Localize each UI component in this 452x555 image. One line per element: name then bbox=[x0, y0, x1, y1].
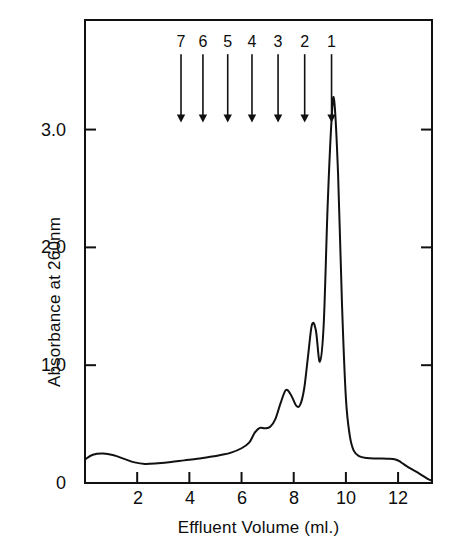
plot-area bbox=[0, 0, 452, 555]
arrow-head bbox=[199, 114, 207, 122]
arrow-head bbox=[327, 114, 335, 122]
peak-marker-label-2: 2 bbox=[295, 34, 315, 50]
x-tick-label-4: 4 bbox=[176, 489, 204, 507]
absorbance-trace bbox=[85, 97, 432, 481]
x-axis-title: Effluent Volume (ml.) bbox=[85, 518, 432, 538]
peak-marker-label-5: 5 bbox=[218, 34, 238, 50]
peak-marker-label-7: 7 bbox=[171, 34, 191, 50]
peak-marker-label-1: 1 bbox=[322, 34, 342, 50]
arrow-head bbox=[274, 114, 282, 122]
plot-frame bbox=[85, 20, 432, 483]
x-tick-label-8: 8 bbox=[280, 489, 308, 507]
axis-ticks bbox=[85, 130, 432, 483]
arrow-head bbox=[224, 114, 232, 122]
y-tick-label-3: 3.0 bbox=[20, 121, 66, 139]
arrow-head bbox=[177, 114, 185, 122]
y-tick-label-1: 1.0 bbox=[20, 356, 66, 374]
peak-marker-label-4: 4 bbox=[242, 34, 262, 50]
arrow-head bbox=[300, 114, 308, 122]
x-tick-label-10: 10 bbox=[332, 489, 360, 507]
peak-marker-label-6: 6 bbox=[193, 34, 213, 50]
chromatogram-figure: Absorbance at 260nm Effluent Volume (ml.… bbox=[0, 0, 452, 555]
y-axis-title: Absorbance at 260nm bbox=[45, 132, 65, 472]
arrow-head bbox=[248, 114, 256, 122]
peak-marker-arrows bbox=[177, 54, 336, 122]
x-tick-label-6: 6 bbox=[228, 489, 256, 507]
x-tick-label-2: 2 bbox=[124, 489, 152, 507]
peak-marker-label-3: 3 bbox=[268, 34, 288, 50]
y-tick-label-0: 0 bbox=[20, 474, 66, 492]
y-tick-label-2: 2.0 bbox=[20, 238, 66, 256]
x-tick-label-12: 12 bbox=[384, 489, 412, 507]
